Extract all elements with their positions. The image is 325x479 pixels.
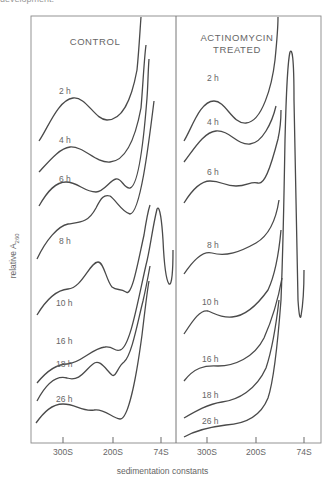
curve-label-control-4h: 4 h (59, 135, 71, 145)
y-axis-label: relative A260 (8, 216, 20, 296)
curve-label-control-8h: 8 h (59, 236, 71, 246)
tick-label-300s-left: 300S (53, 447, 73, 457)
curve-label-control-2h: 2 h (59, 86, 71, 96)
panel-title-actinomycin: ACTINOMYCIN TREATED (192, 32, 282, 56)
actinomycin-curves (184, 17, 304, 437)
tick-label-200s-right: 200S (246, 447, 266, 457)
panel-title-line2: TREATED (192, 44, 282, 56)
tick-label-200s-left: 200S (103, 447, 123, 457)
curve-label-control-10h: 10 h (56, 298, 73, 308)
curve-label-control-18h: 18 h (56, 359, 73, 369)
x-axis-label: sedimentation constants (0, 466, 325, 476)
curve-label-actino-16h: 16 h (202, 354, 219, 364)
plot-area (0, 0, 325, 479)
curve-label-control-6h: 6 h (59, 174, 71, 184)
curve-label-actino-2h: 2 h (207, 73, 219, 83)
curve-label-actino-8h: 8 h (207, 240, 219, 250)
panel-title-control: CONTROL (55, 36, 135, 48)
tick-label-300s-right: 300S (197, 447, 217, 457)
y-axis-label-main: relative A (8, 243, 18, 278)
panel-title-line1: ACTINOMYCIN (192, 32, 282, 44)
curve-label-control-16h: 16 h (56, 336, 73, 346)
curve-label-control-26h: 26 h (56, 394, 73, 404)
curve-label-actino-10h: 10 h (202, 297, 219, 307)
curve-label-actino-18h: 18 h (202, 390, 219, 400)
curve-label-actino-26h: 26 h (202, 416, 219, 426)
y-axis-label-sub: 260 (14, 233, 20, 243)
curve-label-actino-4h: 4 h (207, 117, 219, 127)
tick-label-74s-right: 74S (296, 447, 311, 457)
tick-label-74s-left: 74S (153, 447, 168, 457)
sedimentation-figure: development. (0, 0, 325, 479)
curve-label-actino-6h: 6 h (207, 167, 219, 177)
